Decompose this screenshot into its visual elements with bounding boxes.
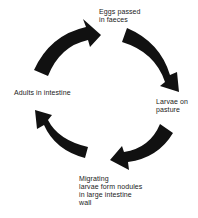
life-cycle-diagram: Eggs passed in faeces Larvae on pasture … [0, 0, 198, 218]
stage-larvae-label: Larvae on pasture [156, 98, 188, 114]
arrow-eggs-to-larvae-icon [122, 28, 179, 92]
arrow-migrating-to-adults-icon [35, 110, 88, 158]
arrow-larvae-to-migrating-icon [110, 124, 173, 170]
arrow-adults-to-eggs-icon [34, 19, 101, 76]
stage-migrating-label: Migrating larvae form nodules in large i… [79, 175, 142, 207]
stage-adults-label: Adults in intestine [14, 89, 71, 97]
stage-eggs-label: Eggs passed in faeces [99, 8, 141, 24]
